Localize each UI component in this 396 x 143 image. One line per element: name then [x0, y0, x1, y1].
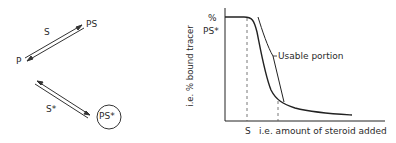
usable-portion-label: Usable portion [278, 52, 344, 61]
y-axis-ps-star: PS* [203, 27, 219, 36]
dashed-markers [247, 18, 278, 121]
diagram-canvas [0, 0, 396, 143]
equilibrium-arrow-top [25, 25, 84, 61]
label-s-star: S* [46, 105, 56, 114]
label-ps-star-circled: PS* [99, 112, 115, 121]
label-ps: PS [86, 20, 97, 29]
x-axis-s-label: S [245, 127, 251, 136]
chart-axes [225, 8, 385, 121]
y-axis-percent: % [208, 14, 217, 23]
x-axis-label: i.e. amount of steroid added [259, 127, 387, 136]
equilibrium-arrow-bottom [35, 81, 90, 118]
displacement-curve [225, 17, 352, 115]
label-p: P [16, 57, 21, 66]
y-axis-label: i.e. % bound tracer [185, 25, 195, 106]
label-s: S [44, 28, 50, 37]
